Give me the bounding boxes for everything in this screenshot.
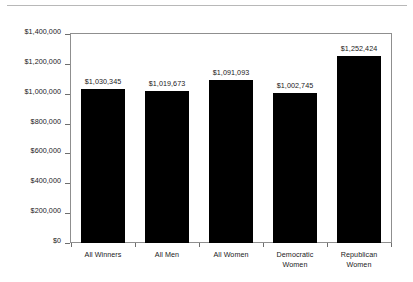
y-axis-tick-mark bbox=[65, 34, 70, 35]
bar-value-label: $1,030,345 bbox=[85, 77, 121, 86]
x-axis-category-label-line: All Winners bbox=[71, 250, 135, 260]
x-axis-category-label: DemocraticWomen bbox=[263, 250, 327, 269]
x-axis-tick-mark bbox=[263, 243, 264, 247]
bar-value-label: $1,019,673 bbox=[149, 79, 185, 88]
bar-slot[interactable]: $1,252,424 bbox=[327, 34, 391, 243]
y-axis-tick-mark bbox=[65, 213, 70, 214]
y-axis-tick-label: $600,000 bbox=[31, 147, 61, 155]
x-axis-category-label-line: Women bbox=[263, 260, 327, 270]
y-axis-tick-label: $400,000 bbox=[31, 177, 61, 185]
bar-value-label: $1,252,424 bbox=[341, 44, 377, 53]
bar-slot[interactable]: $1,030,345 bbox=[71, 34, 135, 243]
x-axis-category-label: All Winners bbox=[71, 250, 135, 260]
x-axis-tick-mark bbox=[135, 243, 136, 247]
bar-slot[interactable]: $1,002,745 bbox=[263, 34, 327, 243]
x-axis-category-label-line: Republican bbox=[327, 250, 391, 260]
y-axis-tick-label: $1,200,000 bbox=[25, 58, 61, 66]
bar[interactable] bbox=[337, 56, 381, 243]
x-axis-category-label: RepublicanWomen bbox=[327, 250, 391, 269]
bar-chart-figure: $1,400,000$1,200,000$1,000,000$800,000$6… bbox=[0, 0, 413, 282]
y-axis: $1,400,000$1,200,000$1,000,000$800,000$6… bbox=[0, 33, 70, 244]
x-axis-labels: All WinnersAll MenAll WomenDemocraticWom… bbox=[71, 250, 391, 280]
y-axis-tick-mark bbox=[65, 64, 70, 65]
x-axis-tick-mark bbox=[199, 243, 200, 247]
bar-slot[interactable]: $1,019,673 bbox=[135, 34, 199, 243]
y-axis-tick-label: $0 bbox=[53, 237, 61, 245]
bar-value-label: $1,002,745 bbox=[277, 81, 313, 90]
y-axis-tick-label: $800,000 bbox=[31, 118, 61, 126]
x-axis-tick-mark bbox=[71, 243, 72, 247]
bar[interactable] bbox=[273, 93, 317, 243]
bar-slot[interactable]: $1,091,093 bbox=[199, 34, 263, 243]
y-axis-tick-label: $1,400,000 bbox=[25, 28, 61, 36]
y-axis-tick-label: $1,000,000 bbox=[25, 88, 61, 96]
x-axis-tick-mark bbox=[327, 243, 328, 247]
bar-value-label: $1,091,093 bbox=[213, 68, 249, 77]
y-axis-tick-label: $200,000 bbox=[31, 207, 61, 215]
y-axis-tick-mark bbox=[65, 124, 70, 125]
bar[interactable] bbox=[145, 91, 189, 243]
x-axis-tick-mark bbox=[391, 243, 392, 247]
y-axis-tick-mark bbox=[65, 94, 70, 95]
x-axis-ticks bbox=[70, 243, 392, 248]
x-axis-category-label: All Women bbox=[199, 250, 263, 260]
bars-layer: $1,030,345$1,019,673$1,091,093$1,002,745… bbox=[71, 34, 391, 243]
y-axis-tick-mark bbox=[65, 183, 70, 184]
y-axis-tick-mark bbox=[65, 153, 70, 154]
x-axis-category-label-line: Women bbox=[327, 260, 391, 270]
x-axis-category-label: All Men bbox=[135, 250, 199, 260]
x-axis-category-label-line: Democratic bbox=[263, 250, 327, 260]
bar[interactable] bbox=[209, 80, 253, 243]
x-axis-category-label-line: All Women bbox=[199, 250, 263, 260]
x-axis-category-label-line: All Men bbox=[135, 250, 199, 260]
bar[interactable] bbox=[81, 89, 125, 243]
